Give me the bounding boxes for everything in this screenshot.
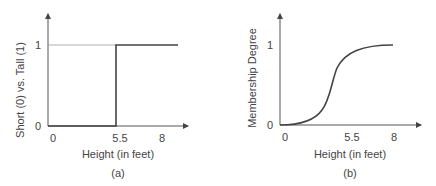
x-label-a: Height (in feet) xyxy=(82,148,154,160)
y-tick-1-b: 1 xyxy=(267,39,273,51)
chart-a: 1 0 0 5.5 8 Height (in feet) Short (0) v… xyxy=(14,14,188,179)
y-label-b: Membership Degree xyxy=(246,28,258,128)
y-label-a: Short (0) vs. Tall (1) xyxy=(14,42,26,138)
x-label-b: Height (in feet) xyxy=(314,148,386,160)
x-tick-5.5-b: 5.5 xyxy=(344,131,359,143)
chart-b: 1 0 0 5.5 8 Height (in feet) Membership … xyxy=(246,14,421,179)
caption-b: (b) xyxy=(343,167,356,179)
y-tick-0-b: 0 xyxy=(267,119,273,131)
y-tick-0-a: 0 xyxy=(35,120,41,132)
figure: 1 0 0 5.5 8 Height (in feet) Short (0) v… xyxy=(0,0,436,186)
x-tick-0-a: 0 xyxy=(50,132,56,144)
y-tick-1-a: 1 xyxy=(35,39,41,51)
x-tick-0-b: 0 xyxy=(282,131,288,143)
x-tick-5.5-a: 5.5 xyxy=(112,132,127,144)
step-function xyxy=(48,45,178,126)
x-tick-8-b: 8 xyxy=(391,131,397,143)
x-tick-8-a: 8 xyxy=(159,132,165,144)
sigmoid-curve xyxy=(280,45,393,125)
caption-a: (a) xyxy=(111,167,124,179)
